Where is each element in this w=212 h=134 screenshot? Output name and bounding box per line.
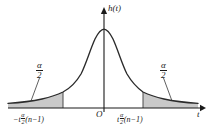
left-critical-value-label: −t α 2 (n−1) <box>13 112 44 126</box>
right-critical-argument: (n−1) <box>124 115 143 124</box>
y-axis-label: h(t) <box>108 4 121 13</box>
left-alpha-leader-line <box>31 78 40 101</box>
left-critical-argument: (n−1) <box>25 115 44 124</box>
t-axis-arrowhead <box>200 105 206 112</box>
h-axis-arrowhead <box>101 7 107 14</box>
t-distribution-figure: h(t) t O −t α 2 (n−1) t α 2 (n−1) α 2 α … <box>0 0 212 134</box>
right-critical-value-label: t α 2 (n−1) <box>117 112 143 126</box>
right-tail-area-label: α 2 <box>160 61 167 81</box>
x-axis-label: t <box>197 110 200 119</box>
right-tail-area-denominator: 2 <box>160 71 167 80</box>
origin-label: O <box>96 110 103 119</box>
left-tail-area-label: α 2 <box>36 61 43 81</box>
left-tail-area-denominator: 2 <box>36 71 43 80</box>
right-alpha-leader-line <box>164 78 173 101</box>
